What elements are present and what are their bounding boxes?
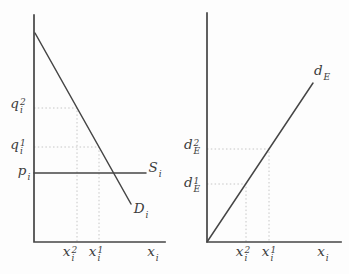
left-q2-guide (34, 108, 77, 242)
math-base: d (184, 176, 193, 190)
math-base: x (63, 245, 71, 259)
math-supsub: E (324, 73, 331, 81)
label-left-x1: x1i (89, 245, 103, 262)
math-base: x (89, 245, 97, 259)
diagram-svg (0, 0, 349, 274)
label-right-x-axis: xi (317, 245, 329, 262)
demand-curve (35, 33, 131, 204)
label-supply-curve: Si (148, 161, 161, 178)
math-supsub: 2i (71, 247, 77, 262)
math-supsub: i (159, 170, 162, 178)
label-right-d2: d2E (184, 138, 200, 155)
label-left-x-axis: xi (147, 245, 159, 262)
label-right-d1: d1E (184, 176, 200, 193)
math-supsub: 2E (194, 140, 201, 155)
math-supsub: 1i (97, 247, 103, 262)
math-supsub: 1E (194, 178, 201, 193)
math-base: x (317, 245, 325, 259)
export-demand-curve (207, 83, 313, 242)
math-supsub: 1i (20, 140, 26, 155)
math-base: d (314, 64, 323, 78)
math-supsub: i (326, 254, 329, 262)
label-right-x2: x2i (236, 245, 250, 262)
math-base: S (148, 161, 157, 175)
math-supsub: i (156, 254, 159, 262)
label-export-demand-curve: dE (314, 64, 330, 81)
math-supsub: i (145, 211, 148, 219)
left-q1-guide (34, 147, 99, 242)
math-base: q (10, 138, 19, 152)
math-base: D (134, 202, 145, 216)
math-base: d (184, 138, 193, 152)
math-supsub: 2i (244, 247, 250, 262)
label-right-x1: x1i (262, 245, 276, 262)
math-base: x (236, 245, 244, 259)
label-demand-curve: Di (134, 202, 149, 219)
math-supsub: i (27, 173, 30, 181)
math-base: q (10, 97, 19, 111)
label-left-p: pi (18, 164, 31, 181)
label-left-q1: q1i (10, 138, 25, 155)
math-supsub: 1i (270, 247, 276, 262)
label-left-x2: x2i (63, 245, 77, 262)
math-base: x (262, 245, 270, 259)
math-supsub: 2i (20, 99, 26, 114)
math-base: p (18, 164, 27, 178)
math-base: x (147, 245, 155, 259)
right-axes (207, 13, 341, 242)
label-left-q2: q2i (10, 97, 25, 114)
figure-canvas: q2i q1i pi Si Di x2i x1i xi d2E d1E dE x… (0, 0, 349, 274)
